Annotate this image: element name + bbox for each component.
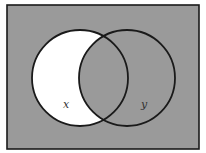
- venn-diagram: x y: [0, 0, 206, 153]
- set-y-label: y: [140, 98, 148, 111]
- set-x-label: x: [63, 98, 70, 111]
